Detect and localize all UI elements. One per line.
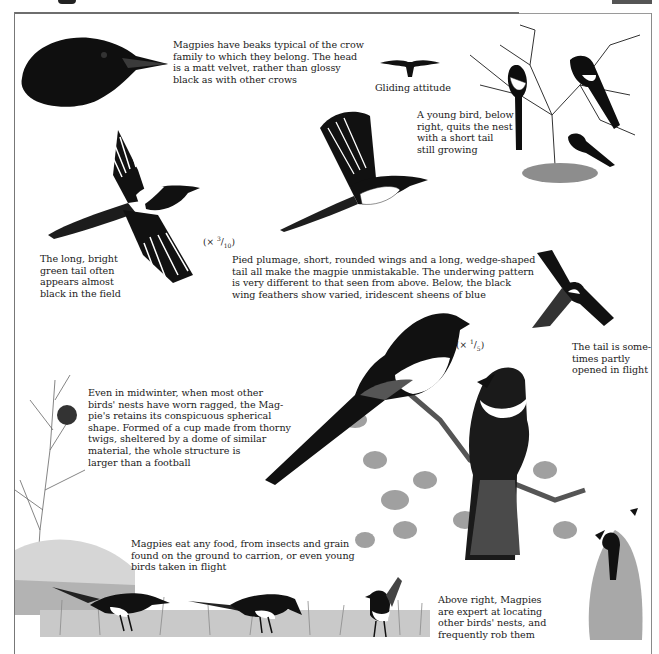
caption-tail: The long, bright green tail often appear… xyxy=(40,253,121,299)
scale-flying: (× 3/10) xyxy=(203,234,235,251)
gliding-silhouette-icon xyxy=(380,57,440,79)
header-glyph xyxy=(58,0,76,4)
page-frame-top-right xyxy=(519,13,651,14)
page-frame-top xyxy=(14,12,519,14)
caption-young-bird: A young bird, below right, quits the nes… xyxy=(417,109,514,155)
page-tab-marker xyxy=(612,0,652,4)
nest-robbing-illustration xyxy=(580,490,650,650)
caption-gliding: Gliding attitude xyxy=(375,82,451,94)
scale-perched: (× 1/5) xyxy=(456,337,484,354)
perched-magpies-illustration xyxy=(265,300,595,560)
flying-magpie-below-illustration xyxy=(280,108,430,233)
caption-plumage: Pied plumage, short, rounded wings and a… xyxy=(232,254,535,300)
caption-robbing: Above right, Magpies are expert at locat… xyxy=(438,594,546,640)
caption-food: Magpies eat any food, from insects and g… xyxy=(131,538,355,573)
magpie-head-illustration xyxy=(18,30,168,110)
feeding-magpies-illustration xyxy=(40,565,430,640)
caption-head: Magpies have beaks typical of the crow f… xyxy=(173,39,364,85)
page-frame-right xyxy=(651,13,652,654)
caption-nest: Even in midwinter, when most other birds… xyxy=(88,387,291,468)
magpies-in-tree-illustration xyxy=(460,25,650,190)
